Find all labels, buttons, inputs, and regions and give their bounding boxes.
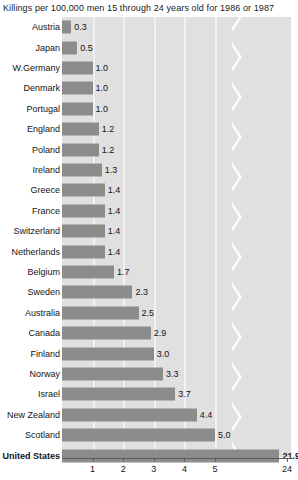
bar [62, 449, 279, 462]
bar-value-label: 1.2 [102, 145, 115, 155]
bar [62, 41, 77, 54]
bar-row-label: Denmark [23, 83, 60, 93]
bar-row: England1.2 [0, 119, 298, 139]
bar-value-label: 0.5 [80, 43, 93, 53]
axis-tick-label: 1 [90, 464, 95, 474]
axis-tick-label: 24 [282, 464, 292, 474]
bar-row: Canada2.9 [0, 323, 298, 343]
bar-row: Norway3.3 [0, 364, 298, 384]
bar-value-label: 3.3 [166, 369, 179, 379]
bar-row: Switzerland1.4 [0, 221, 298, 241]
bar-row: Austria0.3 [0, 17, 298, 37]
bar-value-label: 1.4 [108, 247, 121, 257]
axis-tickmark [287, 458, 288, 462]
bar [62, 429, 215, 442]
bar [62, 408, 197, 421]
bar [62, 184, 105, 197]
bar-row-label: Ireland [32, 165, 60, 175]
bar-value-label: 1.4 [108, 206, 121, 216]
bar [62, 82, 93, 95]
bar [62, 367, 163, 380]
bar-value-label: 2.3 [135, 287, 148, 297]
bar [62, 163, 102, 176]
bar-row: W.Germany1.0 [0, 58, 298, 78]
bar-row: United States21.9 [0, 445, 298, 465]
bar-value-label: 1.0 [96, 83, 109, 93]
bar-value-label: 1.0 [96, 63, 109, 73]
bar-row: Poland1.2 [0, 139, 298, 159]
bar-row-label: United States [2, 451, 60, 461]
bar-row: New Zealand4.4 [0, 405, 298, 425]
bar-value-label: 1.2 [102, 124, 115, 134]
bar-row-label: Switzerland [13, 226, 60, 236]
bar-value-label: 4.4 [200, 410, 213, 420]
bar [62, 265, 114, 278]
bar-row-label: Greece [30, 185, 60, 195]
bar-value-label: 1.4 [108, 185, 121, 195]
bar-row-label: Sweden [27, 287, 60, 297]
bar-row-label: France [32, 206, 60, 216]
chart-root: Killings per 100,000 men 15 through 24 y… [0, 0, 298, 480]
axis-tick-label: 2 [121, 464, 126, 474]
bar-value-label: 3.7 [178, 389, 191, 399]
bar-value-label: 5.0 [218, 430, 231, 440]
bar-row: Belgium1.7 [0, 262, 298, 282]
bar-rows: Austria0.3Japan0.5W.Germany1.0Denmark1.0… [0, 17, 298, 457]
bar-row: Portugal1.0 [0, 99, 298, 119]
bar-row: Ireland1.3 [0, 160, 298, 180]
x-axis-end-cap [290, 454, 291, 459]
bar-value-label: 1.4 [108, 226, 121, 236]
bar-row-label: Finland [30, 349, 60, 359]
bar-row: Israel3.7 [0, 384, 298, 404]
bar-row: Sweden2.3 [0, 282, 298, 302]
bar-row: Netherlands1.4 [0, 241, 298, 261]
bar-row-label: Austria [32, 22, 60, 32]
axis-tickmark [184, 458, 185, 462]
axis-tickmark [93, 458, 94, 462]
bar [62, 225, 105, 238]
bar-row: Finland3.0 [0, 343, 298, 363]
bar [62, 102, 93, 115]
bar-row: Japan0.5 [0, 37, 298, 57]
bar-row-label: Australia [25, 308, 60, 318]
axis-tick-label: 3 [151, 464, 156, 474]
bar [62, 123, 99, 136]
bar-value-label: 2.5 [142, 308, 155, 318]
bar-value-label: 0.3 [74, 22, 87, 32]
bar-row: Australia2.5 [0, 303, 298, 323]
x-axis-line [62, 458, 291, 459]
bar-row-label: England [27, 124, 60, 134]
bar [62, 143, 99, 156]
axis-tickmark [123, 458, 124, 462]
bar-row-label: Scotland [25, 430, 60, 440]
bar [62, 286, 132, 299]
axis-tick-label: 4 [182, 464, 187, 474]
bar-row-label: Belgium [27, 267, 60, 277]
bar [62, 61, 93, 74]
bar-row-label: New Zealand [7, 410, 60, 420]
bar-row-label: W.Germany [12, 63, 60, 73]
bar-row-label: Netherlands [11, 247, 60, 257]
bar [62, 204, 105, 217]
bar [62, 306, 139, 319]
bar-row: Denmark1.0 [0, 78, 298, 98]
bar-row: Scotland5.0 [0, 425, 298, 445]
bar [62, 21, 71, 34]
bar-row: France1.4 [0, 201, 298, 221]
bar [62, 327, 151, 340]
bar [62, 388, 175, 401]
bar-row-label: Portugal [26, 104, 60, 114]
bar-value-label: 2.9 [154, 328, 167, 338]
bar-row-label: Poland [32, 145, 60, 155]
bar-row-label: Norway [29, 369, 60, 379]
bar-value-label: 3.0 [157, 349, 170, 359]
chart-title: Killings per 100,000 men 15 through 24 y… [3, 3, 274, 13]
axis-tickmark [215, 458, 216, 462]
bar [62, 245, 105, 258]
bar-value-label: 1.0 [96, 104, 109, 114]
bar-row-label: Japan [35, 43, 60, 53]
bar-row-label: Israel [38, 389, 60, 399]
bar-row: Greece1.4 [0, 180, 298, 200]
axis-tick-label: 5 [212, 464, 217, 474]
bar [62, 347, 154, 360]
